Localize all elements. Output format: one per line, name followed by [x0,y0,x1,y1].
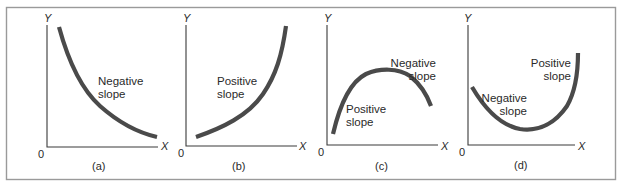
panel-b-caption: (b) [232,160,245,172]
panel-b: Y X 0 (b) Positive slope [178,12,307,172]
panel-c: Y X 0 (c) Negative slope Positive slope [318,12,449,172]
panel-b-y-label: Y [183,12,191,24]
panel-d-annotation-positive-line1: Positive [531,57,571,69]
panel-b-origin-label: 0 [178,147,184,159]
panel-b-annotation-line2: slope [217,88,245,100]
panel-b-x-label: X [298,140,307,152]
panel-d-y-label: Y [464,12,472,24]
panel-b-annotation-line1: Positive [217,75,257,87]
panel-d-caption: (d) [514,159,527,171]
panel-a-origin-label: 0 [38,148,44,160]
panel-d-annotation-negative-line1: Negative [482,92,527,104]
panel-c-x-label: X [440,140,449,152]
panel-a: Y 0 (a) Negative slope [38,12,158,172]
panel-a-y-label: Y [44,12,52,24]
panel-a-annotation-line2: slope [98,88,126,100]
slope-diagram-figure: Y 0 (a) Negative slope X Y X 0 (b) Posit… [0,0,624,187]
panel-c-annotation-negative-line2: slope [409,70,437,82]
panel-a-x-label: X [160,140,169,152]
panel-d-axes [468,25,575,145]
panel-d: Y X 0 (d) Positive slope Negative slope [459,12,586,171]
panel-c-origin-label: 0 [318,146,324,158]
panel-c-annotation-positive-line1: Positive [346,103,386,115]
panel-c-annotation-negative-line1: Negative [391,57,436,69]
panel-d-origin-label: 0 [459,146,465,158]
panel-c-annotation-positive-line2: slope [346,116,374,128]
panel-d-x-label: X [577,140,586,152]
panel-d-annotation-negative-line2: slope [500,105,528,117]
panel-a-caption: (a) [92,160,105,172]
panel-a-annotation-line1: Negative [98,75,143,87]
panel-c-caption: (c) [375,160,388,172]
panel-d-annotation-positive-line2: slope [544,70,572,82]
panel-c-y-label: Y [324,12,332,24]
